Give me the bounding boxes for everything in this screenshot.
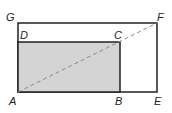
label-C: C [114,29,122,41]
label-A: A [8,95,16,107]
label-E: E [154,95,162,107]
geometry-diagram: G F D C A B E [0,0,172,113]
label-G: G [6,11,15,23]
label-F: F [157,11,165,23]
label-B: B [115,95,122,107]
label-D: D [20,29,28,41]
